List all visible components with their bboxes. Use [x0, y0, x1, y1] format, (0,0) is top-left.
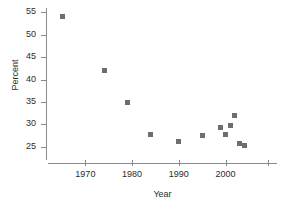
data-point — [242, 143, 247, 148]
data-point — [223, 132, 228, 137]
scatter-chart: 55504540353025 1970198019902000 Percent … — [0, 0, 292, 208]
y-axis-line — [46, 8, 47, 160]
x-axis-title: Year — [48, 189, 277, 199]
y-tick-mark — [41, 147, 47, 148]
y-tick-mark — [41, 102, 47, 103]
data-point — [60, 14, 65, 19]
plot-area: 55504540353025 1970198019902000 Percent … — [0, 0, 292, 208]
x-tick-mark — [226, 160, 227, 166]
data-point — [228, 123, 233, 128]
y-tick-label: 55 — [14, 7, 36, 16]
x-tick-mark — [179, 160, 180, 166]
data-point — [176, 139, 181, 144]
y-tick-label: 25 — [14, 142, 36, 151]
x-tick-mark — [132, 160, 133, 166]
y-tick-mark — [41, 80, 47, 81]
data-point — [200, 133, 205, 138]
y-tick-mark — [41, 12, 47, 13]
data-point — [125, 100, 130, 105]
y-axis-title: Percent — [10, 47, 20, 103]
x-tick-mark — [268, 160, 269, 166]
y-tick-label: 30 — [14, 119, 36, 128]
x-axis-line — [48, 163, 277, 164]
y-tick-mark — [41, 35, 47, 36]
y-tick-label: 50 — [14, 30, 36, 39]
x-tick-mark — [85, 160, 86, 166]
x-tick-label: 2000 — [206, 169, 246, 179]
y-tick-mark — [41, 124, 47, 125]
x-tick-label: 1980 — [112, 169, 152, 179]
y-tick-mark — [41, 57, 47, 58]
data-point — [232, 113, 237, 118]
data-point — [148, 132, 153, 137]
data-point — [218, 125, 223, 130]
x-tick-label: 1990 — [159, 169, 199, 179]
x-tick-label: 1970 — [65, 169, 105, 179]
data-point — [102, 68, 107, 73]
